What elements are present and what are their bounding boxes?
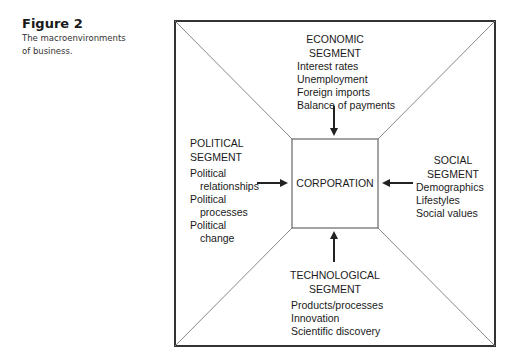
social-item: Lifestyles — [416, 194, 490, 207]
political-item: change — [190, 232, 259, 245]
technological-item: Scientific discovery — [291, 325, 383, 338]
economic-segment: ECONOMIC SEGMENT Interest rates Unemploy… — [295, 33, 395, 112]
diagonal-bottom-left — [175, 228, 292, 346]
technological-item: Innovation — [291, 312, 383, 325]
political-title-line-1: POLITICAL — [190, 137, 259, 151]
technological-title-line-1: TECHNOLOGICAL — [290, 269, 380, 283]
political-item: Political — [190, 219, 259, 232]
economic-item: Unemployment — [297, 73, 395, 86]
economic-item: Foreign imports — [297, 86, 395, 99]
social-title-line-2: SEGMENT — [416, 168, 490, 182]
political-title-line-2: SEGMENT — [190, 151, 259, 165]
diagonal-top-right — [378, 21, 495, 139]
technological-title-line-2: SEGMENT — [290, 283, 380, 297]
technological-segment: TECHNOLOGICAL SEGMENT Products/processes… — [290, 269, 383, 338]
political-item: relationships — [190, 180, 259, 193]
corporation-label: CORPORATION — [292, 177, 378, 190]
social-item: Demographics — [416, 181, 490, 194]
social-segment: SOCIAL SEGMENT Demographics Lifestyles S… — [416, 154, 490, 220]
economic-item: Interest rates — [297, 60, 395, 73]
diagonal-bottom-right — [378, 228, 495, 346]
technological-item: Products/processes — [291, 299, 383, 312]
diagonal-top-left — [175, 21, 292, 139]
economic-title-line-2: SEGMENT — [295, 47, 375, 61]
political-segment: POLITICAL SEGMENT Political relationship… — [190, 137, 259, 245]
social-item: Social values — [416, 207, 490, 220]
social-title-line-1: SOCIAL — [416, 154, 490, 168]
political-item: processes — [190, 206, 259, 219]
economic-title-line-1: ECONOMIC — [295, 33, 375, 47]
political-item: Political — [190, 193, 259, 206]
economic-item: Balance of payments — [297, 99, 395, 112]
political-item: Political — [190, 167, 259, 180]
